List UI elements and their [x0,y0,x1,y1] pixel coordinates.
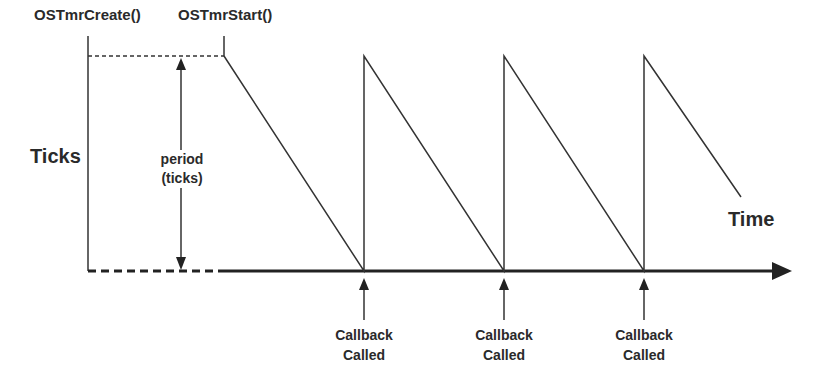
period-label-line1: period [152,150,212,169]
callback-arrowhead-1-icon [359,278,369,290]
callback-label-2-line1: Callback [464,325,544,345]
callback-label-1-line2: Called [324,345,404,365]
callback-label-2-line2: Called [464,345,544,365]
start-label: OSTmrStart() [178,6,272,23]
callback-label-1-line1: Callback [324,325,404,345]
callback-label-2: Callback Called [464,325,544,365]
callback-label-3-line1: Callback [604,325,684,345]
period-arrowhead-down-icon [176,257,186,270]
countdown-sawtooth [224,56,741,271]
period-label-line2: (ticks) [152,169,212,188]
callback-arrowhead-2-icon [499,278,509,290]
x-axis-label: Time [728,208,774,231]
period-arrowhead-up-icon [176,58,186,70]
time-axis-arrowhead-icon [772,262,792,280]
timer-diagram-canvas [0,0,819,387]
callback-arrowhead-3-icon [639,278,649,290]
callback-label-1: Callback Called [324,325,404,365]
period-label: period (ticks) [152,150,212,188]
create-label: OSTmrCreate() [34,6,141,23]
callback-label-3-line2: Called [604,345,684,365]
callback-label-3: Callback Called [604,325,684,365]
y-axis-label: Ticks [30,145,81,168]
